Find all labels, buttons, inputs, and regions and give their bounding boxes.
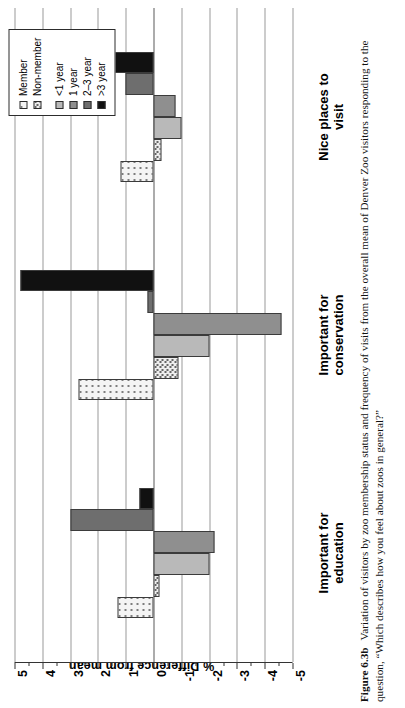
bar (147, 291, 153, 313)
y-tick-mark-minor (84, 663, 85, 666)
y-tick-mark (209, 663, 210, 669)
y-tick-label: 1 (126, 670, 140, 677)
bar (70, 509, 153, 531)
y-tick-mark-minor (195, 663, 196, 666)
legend-label: <1 year (53, 62, 64, 96)
y-tick-mark (153, 663, 154, 669)
y-tick-label: 5 (15, 670, 29, 677)
y-tick-mark-minor (28, 663, 29, 666)
y-tick-label: 0 (154, 670, 168, 677)
figure-stage: % Difference from mean 543210-1-2-3-4-5 … (0, 0, 405, 708)
bar (20, 270, 153, 292)
bar (153, 553, 209, 575)
legend-swatch-icon (83, 101, 91, 109)
figure: % Difference from mean 543210-1-2-3-4-5 … (0, 0, 405, 708)
y-tick-label: -4 (265, 670, 279, 681)
y-tick-label: -5 (293, 670, 307, 681)
bar (153, 95, 175, 117)
y-tick-mark-minor (250, 663, 251, 666)
y-tick-mark (42, 663, 43, 669)
y-tick-label: 4 (43, 670, 57, 677)
category-label: Important for education (316, 513, 346, 594)
legend-label: >3 year (95, 62, 106, 96)
y-tick-mark-minor (56, 663, 57, 666)
legend-item: Non-member (30, 38, 43, 109)
y-tick-mark-minor (223, 663, 224, 666)
category-labels: Important for educationImportant for con… (306, 8, 352, 662)
legend-item: 2–3 year (80, 38, 93, 109)
y-tick-mark-minor (139, 663, 140, 666)
y-tick-mark-minor (111, 663, 112, 666)
bar (125, 73, 153, 95)
category-label: Important for conservation (316, 295, 346, 376)
y-tick-mark (125, 663, 126, 669)
legend-item: 1 year (66, 38, 79, 109)
y-tick-label: 2 (98, 670, 112, 677)
bar (153, 139, 161, 161)
legend-label: 1 year (67, 68, 78, 96)
y-tick-mark-minor (278, 663, 279, 666)
y-tick-mark (97, 663, 98, 669)
y-tick-mark (70, 663, 71, 669)
y-axis-tick-labels: 543210-1-2-3-4-5 (14, 664, 292, 708)
bar (111, 52, 153, 74)
y-tick-mark (292, 663, 293, 669)
bar (117, 597, 153, 619)
legend-swatch-icon (19, 101, 27, 109)
legend-swatch-icon (97, 101, 105, 109)
caption-text: Variation of visitors by zoo membership … (357, 41, 384, 702)
bar (139, 488, 153, 510)
figure-caption: Figure 6.3bVariation of visitors by zoo … (356, 12, 386, 702)
bar (153, 575, 159, 597)
legend-swatch-icon (69, 101, 77, 109)
bar (153, 117, 181, 139)
chart-legend: MemberNon-member<1 year1 year2–3 year>3 … (8, 29, 115, 116)
bar (78, 379, 153, 401)
y-tick-label: 3 (71, 670, 85, 677)
bar (120, 161, 153, 183)
bar (153, 335, 209, 357)
y-tick-label: -1 (182, 670, 196, 681)
category-label: Nice places to visit (316, 63, 346, 172)
y-tick-mark (181, 663, 182, 669)
legend-item: <1 year (52, 38, 65, 109)
y-tick-mark (14, 663, 15, 669)
legend-label: 2–3 year (81, 57, 92, 96)
legend-swatch-icon (55, 101, 63, 109)
legend-swatch-icon (33, 101, 41, 109)
y-tick-label: -2 (210, 670, 224, 681)
legend-item: >3 year (94, 38, 107, 109)
bar (153, 531, 214, 553)
legend-label: Non-member (31, 38, 42, 96)
y-tick-mark (264, 663, 265, 669)
bar (153, 357, 178, 379)
bar (153, 313, 281, 335)
legend-label: Member (17, 59, 28, 96)
caption-number: Figure 6.3b (357, 648, 369, 703)
legend-item: Member (16, 38, 29, 109)
y-tick-mark-minor (167, 663, 168, 666)
y-tick-mark (236, 663, 237, 669)
y-tick-label: -3 (237, 670, 251, 681)
